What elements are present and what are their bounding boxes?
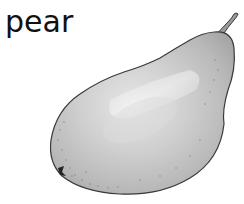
pear-illustration (0, 0, 244, 204)
